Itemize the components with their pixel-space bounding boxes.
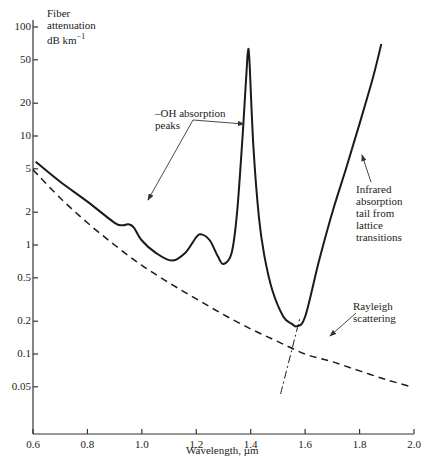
series-measured-fiber-attenuation bbox=[36, 44, 382, 327]
y-tick-label: 100 bbox=[15, 21, 32, 32]
ir-arrow bbox=[362, 155, 371, 182]
y-tick-label: 5 bbox=[26, 163, 32, 174]
oh-absorption-annotation: –OH absorption peaks bbox=[155, 107, 226, 131]
oh-arrow-to-950 bbox=[148, 120, 193, 200]
y-tick-label: 0.1 bbox=[17, 348, 31, 359]
ir-annotation-line3: tail from bbox=[356, 207, 402, 219]
y-axis-label-line1: Fiber bbox=[47, 7, 96, 19]
y-tick-label: 20 bbox=[20, 97, 31, 108]
ir-annotation-line1: Infrared bbox=[356, 183, 402, 195]
x-axis-label: Wavelength, µm bbox=[186, 444, 259, 456]
rayleigh-annotation-line1: Rayleigh bbox=[353, 300, 396, 312]
x-tick-label: 0.8 bbox=[81, 439, 95, 450]
oh-annotation-line1: –OH absorption bbox=[155, 107, 226, 119]
ir-annotation-line4: lattice bbox=[356, 219, 402, 231]
y-tick-label: 1 bbox=[26, 239, 32, 250]
y-tick-label: 0.05 bbox=[12, 381, 31, 392]
y-axis-label-line3: dB km−1 bbox=[47, 31, 96, 46]
ir-annotation-line5: transitions bbox=[356, 231, 402, 243]
y-tick-label: 0.5 bbox=[17, 272, 31, 283]
y-tick-label: 10 bbox=[20, 130, 31, 141]
rayleigh-annotation: Rayleigh scattering bbox=[353, 300, 396, 324]
x-tick-label: 0.6 bbox=[26, 439, 40, 450]
y-tick-label: 2 bbox=[26, 206, 32, 217]
x-tick-label: 1.8 bbox=[353, 439, 367, 450]
x-tick-label: 1.6 bbox=[298, 439, 312, 450]
ir-annotation-line2: absorption bbox=[356, 195, 402, 207]
infrared-tail-annotation: Infrared absorption tail from lattice tr… bbox=[356, 183, 402, 243]
oh-annotation-line2: peaks bbox=[155, 119, 226, 131]
rayleigh-annotation-line2: scattering bbox=[353, 312, 396, 324]
curves bbox=[33, 44, 411, 394]
y-axis-label: Fiber attenuation dB km−1 bbox=[47, 7, 96, 46]
x-tick-label: 2.0 bbox=[407, 439, 421, 450]
y-axis-label-line2: attenuation bbox=[47, 19, 96, 31]
series-infrared-absorption-tail-extrapolation bbox=[281, 319, 300, 394]
x-tick-label: 1.0 bbox=[135, 439, 149, 450]
y-tick-label: 50 bbox=[20, 54, 31, 65]
y-tick-label: 0.2 bbox=[17, 315, 31, 326]
